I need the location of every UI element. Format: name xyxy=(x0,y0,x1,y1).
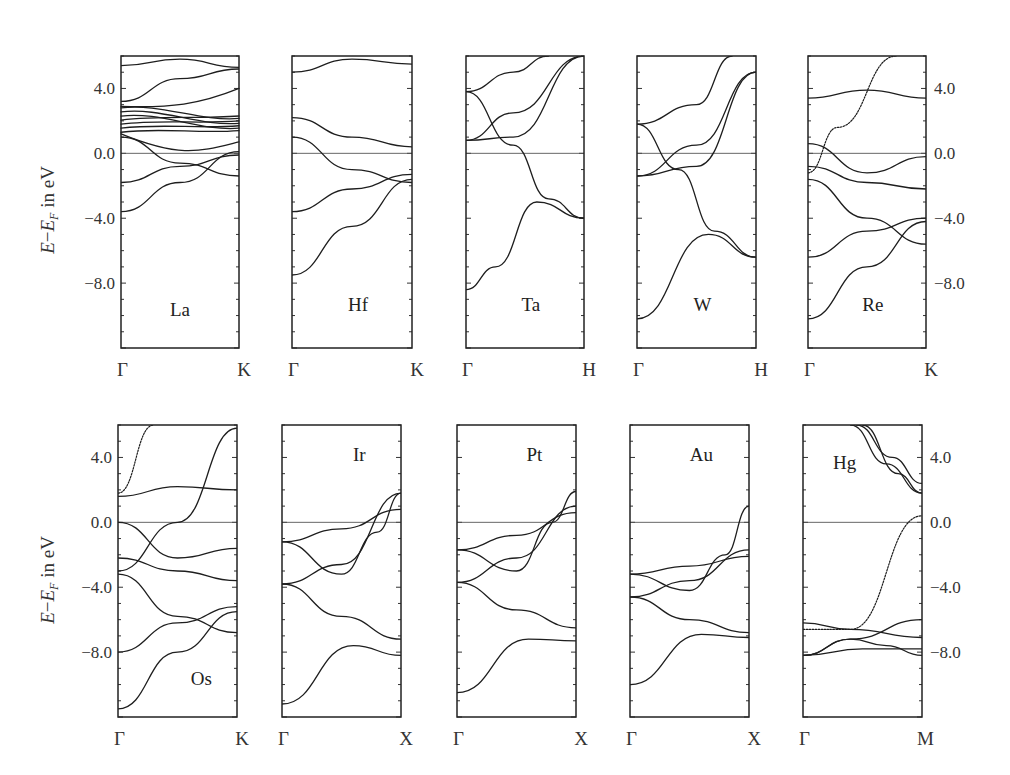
kpoint-label-end: X xyxy=(747,728,761,749)
band-panel-w: WΓH xyxy=(633,56,768,380)
band-panel-la: LaΓK4.00.0−4.0−8.0 xyxy=(84,56,251,380)
y-tick-label: −8.0 xyxy=(934,274,965,293)
y-tick-label: 0.0 xyxy=(934,144,955,163)
y-tick-label: 0.0 xyxy=(94,144,115,163)
kpoint-label-gamma: Γ xyxy=(799,728,810,749)
band-curve xyxy=(803,516,922,630)
band-curve xyxy=(118,558,237,581)
element-label: Ta xyxy=(522,294,541,315)
band-curve xyxy=(457,492,576,572)
element-label: Au xyxy=(690,444,714,465)
band-curve xyxy=(282,509,401,541)
band-curve xyxy=(466,56,549,92)
band-curve xyxy=(118,612,237,709)
kpoint-label-gamma: Γ xyxy=(804,359,815,380)
band-curve xyxy=(121,69,239,101)
y-tick-label: 4.0 xyxy=(934,79,955,98)
element-label: Hf xyxy=(348,294,369,315)
panel-frame xyxy=(630,425,749,717)
kpoint-label-end: K xyxy=(237,359,251,380)
band-curve xyxy=(121,152,239,212)
y-axis-label-bottom: E−EF in eV xyxy=(37,536,61,625)
y-tick-label: −4.0 xyxy=(81,578,112,597)
band-panel-os: OsΓK4.00.0−4.0−8.0 xyxy=(81,425,249,749)
band-panel-au: AuΓX xyxy=(626,425,761,749)
element-label: Pt xyxy=(526,444,543,465)
band-curve xyxy=(808,179,926,244)
y-tick-label: −4.0 xyxy=(84,209,115,228)
band-curve xyxy=(282,493,401,584)
panel-frame xyxy=(803,425,922,717)
band-curve xyxy=(630,634,749,684)
band-panel-re: ReΓK4.00.0−4.0−8.0 xyxy=(804,56,965,380)
element-label: Os xyxy=(191,668,212,689)
band-panel-pt: PtΓX xyxy=(453,425,588,749)
kpoint-label-gamma: Γ xyxy=(114,728,125,749)
y-tick-label: 4.0 xyxy=(930,448,951,467)
kpoint-label-end: K xyxy=(924,359,938,380)
band-curve xyxy=(118,574,237,632)
band-panel-ir: IrΓX xyxy=(278,425,413,749)
band-curve xyxy=(118,425,154,493)
y-tick-label: −8.0 xyxy=(84,274,115,293)
element-label: La xyxy=(170,299,191,320)
y-tick-label: −8.0 xyxy=(930,643,961,662)
y-tick-label: −4.0 xyxy=(930,578,961,597)
kpoint-label-end: H xyxy=(754,359,768,380)
band-curve xyxy=(808,56,897,173)
band-curve xyxy=(857,425,923,483)
band-curve xyxy=(630,506,749,590)
band-curve xyxy=(121,59,239,67)
kpoint-label-end: M xyxy=(917,728,934,749)
kpoint-label-gamma: Γ xyxy=(453,728,464,749)
y-tick-label: −4.0 xyxy=(934,209,965,228)
band-curve xyxy=(851,425,922,493)
y-tick-label: 4.0 xyxy=(91,448,112,467)
kpoint-label-gamma: Γ xyxy=(278,728,289,749)
band-curve xyxy=(292,179,412,275)
band-curve xyxy=(121,155,239,183)
band-curve xyxy=(808,218,926,257)
band-curve xyxy=(292,59,412,72)
band-panel-ta: TaΓH xyxy=(462,56,596,380)
kpoint-label-gamma: Γ xyxy=(462,359,473,380)
kpoint-label-end: H xyxy=(582,359,596,380)
band-curve xyxy=(630,597,749,633)
element-label: W xyxy=(693,294,711,315)
kpoint-label-gamma: Γ xyxy=(633,359,644,380)
band-structure-figure: LaΓK4.00.0−4.0−8.0HfΓKTaΓHWΓHReΓK4.00.0−… xyxy=(0,0,1010,775)
element-label: Ir xyxy=(353,444,366,465)
band-curve xyxy=(118,487,237,497)
y-tick-label: 4.0 xyxy=(94,79,115,98)
band-curve xyxy=(803,639,922,655)
y-axis-label-top: E−EF in eV xyxy=(37,166,61,255)
element-label: Hg xyxy=(833,452,857,473)
band-curve xyxy=(282,646,401,704)
band-curve xyxy=(457,639,576,693)
band-curve xyxy=(292,137,412,182)
band-curve xyxy=(118,522,237,558)
kpoint-label-end: K xyxy=(410,359,424,380)
band-curve xyxy=(457,582,576,627)
y-tick-label: −8.0 xyxy=(81,643,112,662)
kpoint-label-gamma: Γ xyxy=(117,359,128,380)
band-curve xyxy=(282,584,401,639)
band-panel-hg: HgΓM4.00.0−4.0−8.0 xyxy=(799,425,961,749)
band-curve xyxy=(466,202,584,290)
panel-frame xyxy=(282,425,401,717)
kpoint-label-gamma: Γ xyxy=(288,359,299,380)
kpoint-label-gamma: Γ xyxy=(626,728,637,749)
y-tick-label: 0.0 xyxy=(930,513,951,532)
band-curve xyxy=(637,56,732,124)
element-label: Re xyxy=(862,294,883,315)
kpoint-label-end: K xyxy=(235,728,249,749)
band-curve xyxy=(637,124,756,257)
kpoint-label-end: X xyxy=(399,728,413,749)
y-tick-label: 0.0 xyxy=(91,513,112,532)
band-curve xyxy=(637,72,756,176)
band-curve xyxy=(630,556,749,574)
band-panel-hf: HfΓK xyxy=(288,56,424,380)
kpoint-label-end: X xyxy=(574,728,588,749)
